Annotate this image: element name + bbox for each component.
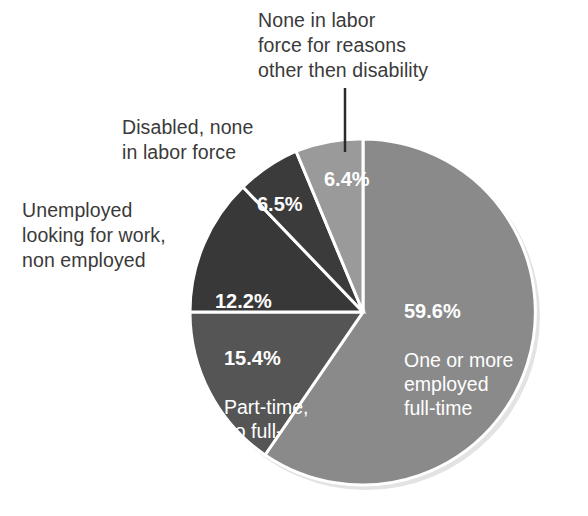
slice-percent-part-time-no-full-time: 15.4% — [224, 346, 309, 371]
slice-label-one-or-more-employed-full-time: 59.6% One or more employed full-time — [404, 275, 513, 444]
callout-disabled-none-in-labor-force: Disabled, none in labor force — [122, 115, 254, 165]
slice-label-disabled-none-in-labor-force: 6.5% — [257, 168, 303, 241]
slice-percent-none-in-labor-force-other-reasons: 6.4% — [324, 167, 370, 192]
slice-percent-unemployed-looking-for-work: 12.2% — [215, 289, 272, 314]
slice-name-part-time-no-full-time: Part-time, no full- time — [224, 395, 309, 467]
slice-label-unemployed-looking-for-work: 12.2% — [215, 265, 272, 338]
callout-none-in-labor-force: None in labor force for reasons other th… — [258, 8, 428, 83]
pie-chart-figure: None in labor force for reasons other th… — [0, 0, 588, 516]
slice-label-part-time-no-full-time: 15.4% Part-time, no full- time — [224, 322, 309, 491]
callout-unemployed-looking-for-work: Unemployed looking for work, non employe… — [22, 198, 166, 273]
slice-name-one-or-more-employed-full-time: One or more employed full-time — [404, 348, 513, 420]
slice-percent-one-or-more-employed-full-time: 59.6% — [404, 299, 513, 324]
slice-percent-disabled-none-in-labor-force: 6.5% — [257, 192, 303, 217]
slice-label-none-in-labor-force-other-reasons: 6.4% — [324, 143, 370, 216]
